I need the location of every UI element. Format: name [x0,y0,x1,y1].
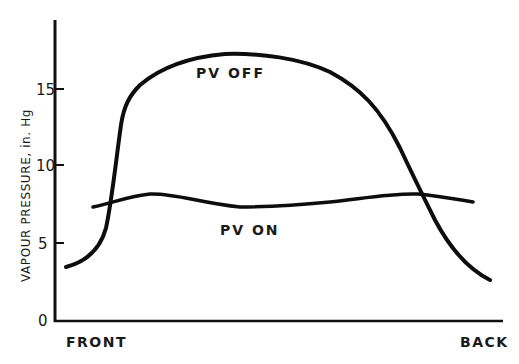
label-pv-off: PV OFF [196,65,265,81]
y-tick-label-10: 10 [36,157,55,175]
y-tick-label-5: 5 [38,235,48,253]
series-pv-on [93,194,473,207]
label-pv-on: PV ON [220,222,280,238]
series-pv-off [66,54,490,280]
y-axis-label: VAPOUR PRESSURE, in. Hg [19,109,33,282]
y-tick-label-0: 0 [38,312,48,330]
x-label-back: BACK [460,334,509,350]
x-label-front: FRONT [66,334,127,350]
y-tick-label-15: 15 [36,81,55,99]
chart: 15 10 5 0 VAPOUR PRESSURE, in. Hg FRONT … [0,0,519,364]
